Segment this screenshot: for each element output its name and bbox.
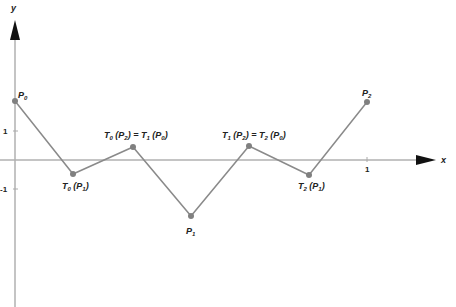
y-axis-arrow-icon bbox=[10, 20, 20, 40]
label-t0-p2-t1-p0: T0 (P2) = T1 (P0) bbox=[104, 130, 168, 141]
point-t2-p1 bbox=[306, 172, 312, 178]
point-t0-p1 bbox=[70, 171, 76, 177]
label-t2-p1: T2 (P1) bbox=[298, 181, 325, 192]
x-tick-label-1: 1 bbox=[365, 165, 370, 174]
x-axis-label: x bbox=[440, 155, 447, 165]
x-axis-arrow-icon bbox=[416, 155, 436, 165]
y-axis-label: y bbox=[10, 3, 17, 13]
label-t0-p1: T0 (P1) bbox=[62, 181, 89, 192]
point-t0-p2 bbox=[130, 144, 136, 150]
label-p2: P2 bbox=[362, 88, 372, 99]
point-t1-p2 bbox=[246, 143, 252, 149]
y-tick-label-neg1: -1 bbox=[0, 185, 8, 194]
label-p0: P0 bbox=[18, 90, 28, 101]
point-p2 bbox=[364, 99, 370, 105]
label-p1: P1 bbox=[186, 226, 196, 237]
point-p1 bbox=[188, 213, 194, 219]
vertex-markers bbox=[12, 98, 370, 219]
polyline-path bbox=[15, 101, 367, 216]
y-tick-label-1: 1 bbox=[3, 127, 8, 136]
label-t1-p2-t2-p0: T1 (P2) = T2 (P0) bbox=[222, 130, 286, 141]
diagram-canvas: y x 1 -1 1 P0 T0 (P1) T0 (P2) = T1 (P0) … bbox=[0, 0, 456, 307]
